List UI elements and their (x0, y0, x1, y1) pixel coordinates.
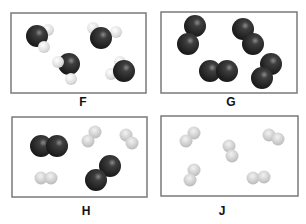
panel-g-label: G (221, 95, 241, 109)
panel-f-label: F (73, 95, 93, 109)
panel-h-label: H (76, 204, 96, 218)
panel-j-label: J (212, 204, 232, 218)
molecule-diagram (0, 0, 306, 224)
